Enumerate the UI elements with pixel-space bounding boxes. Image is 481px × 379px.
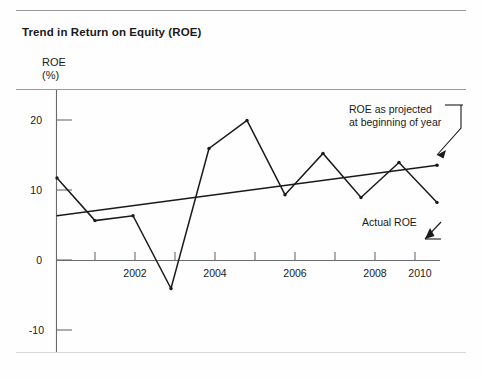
y-ticklabel-minus10: -10	[29, 324, 44, 336]
data-point	[321, 152, 324, 155]
data-point	[169, 287, 172, 290]
annotation-actual-roe: Actual ROE	[362, 216, 417, 229]
figure-container: Trend in Return on Equity (ROE) ROE (%) …	[0, 0, 481, 379]
projected-roe-trendline	[57, 165, 437, 215]
actual-annotation-leader	[425, 222, 441, 239]
y-ticklabel-20: 20	[30, 114, 42, 126]
trendline-end-point	[435, 164, 439, 168]
y-ticklabel-0: 0	[36, 254, 42, 266]
y-axis: 20 10 0 -10	[29, 90, 72, 352]
x-ticklabel-2004: 2004	[203, 267, 227, 279]
data-point	[207, 147, 210, 150]
chart-plot-area: 20 10 0 -10 2002 2004 2006 2008 2010	[0, 0, 481, 379]
data-point	[397, 161, 400, 164]
data-point	[359, 196, 362, 199]
data-point	[131, 214, 134, 217]
actual-roe-series	[57, 121, 437, 289]
bottom-divider-rule	[16, 352, 466, 353]
x-ticklabel-2008: 2008	[363, 267, 387, 279]
data-point	[55, 176, 58, 179]
actual-roe-vertices	[55, 119, 438, 290]
data-point	[283, 193, 286, 196]
data-point	[435, 201, 438, 204]
x-ticklabel-2006: 2006	[283, 267, 307, 279]
data-point	[93, 219, 96, 222]
y-ticklabel-10: 10	[30, 184, 42, 196]
x-axis: 2002 2004 2006 2008 2010	[57, 252, 441, 279]
data-point	[245, 119, 248, 122]
x-ticklabel-2010: 2010	[408, 267, 432, 279]
x-ticklabel-2002: 2002	[123, 267, 147, 279]
annotation-projected-roe: ROE as projected at beginning of year	[349, 103, 441, 129]
